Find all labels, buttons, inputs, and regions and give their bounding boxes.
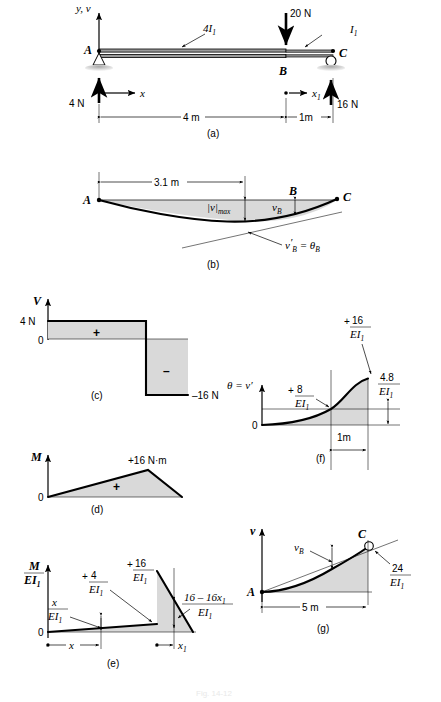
panel-f-peak-leader [362,344,371,374]
panel-e-right-den: EI1 [197,606,212,621]
panel-b-elastic-curve: 3.1 m A B C |v|max vB v′B = θB (b) [82,172,352,270]
panel-d-value-zero: 0 [38,492,44,503]
panel-e-axis-den: EI1 [23,573,40,589]
panel-b-label-b: B [288,184,297,198]
panel-e-dim-x-label2: x [68,639,74,651]
node-c-dot [331,49,335,53]
figure-caption: Fig. 14-12 [196,689,233,698]
panel-e-peak-left-sign: + [82,571,88,582]
panel-g-vb-label: vB [294,541,304,556]
panel-d-sign-positive: + [113,480,120,494]
panel-tag-a: (a) [207,128,219,139]
panel-f-dim-label: 1m [337,432,351,443]
panel-f-peak-num: 16 [352,315,364,326]
panel-c-value-zero: 0 [38,335,44,346]
beam-segment-bc-top [286,50,333,52]
panel-tag-c: (c) [91,390,103,401]
panel-f-mid-num: 8 [297,384,303,395]
panel-g-value-num: 24 [392,563,404,574]
panel-f-mid-label: + 8 EI1 [288,384,314,412]
panel-f-mid-sign: + [288,385,294,396]
panel-e-dot-b [155,643,158,646]
label-x1-axis: x1 [311,87,321,102]
panel-e-axis-label: M EI1 [23,559,44,589]
panel-f-right-den: EI1 [378,385,393,400]
panel-tag-f: (f) [316,453,325,464]
panel-e-peak-left-den: EI1 [88,583,103,598]
x1-origin-dot [284,91,288,95]
panel-f-peak-den: EI1 [349,328,364,343]
panel-b-dim-label: 3.1 m [154,177,179,188]
panel-d-value-peak: +16 N·m [128,455,167,466]
panel-b-node-a [97,198,101,202]
panel-g-node-c-roller [365,542,374,551]
panel-e-right-num: 16 – 16x1 [184,591,226,606]
panel-g-shaded-region [262,548,368,592]
panel-g-label-a: A [246,585,255,599]
label-x-axis: x [139,87,145,99]
panel-e-dot-origin [46,643,49,646]
panel-g-value-leader [375,551,390,564]
panel-g-axis-label: v [250,524,256,538]
panel-c-value-bottom: –16 N [192,390,219,401]
panel-f-shaded-region [262,379,368,425]
panel-b-node-c [335,197,339,201]
reaction-left-label: 4 N [69,98,85,109]
panel-e-peak-right-label: + 16 EI1 [127,558,154,586]
panel-c-sign-positive: + [93,326,100,340]
roller-support-circle [326,56,336,66]
beam-segment-bc-bottom [286,55,333,57]
panel-e-value-zero: 0 [38,627,44,638]
panel-e-peak-left-leader [110,590,152,622]
panel-b-label-a: A [82,193,91,207]
panel-d-axis-label: M [30,450,42,464]
panel-c-sign-negative: – [163,364,170,378]
leader-i1 [305,35,322,47]
panel-c-axis-label: V [33,294,42,308]
panel-e-peak-right-den: EI1 [132,571,147,586]
panel-g-label-c: C [358,527,367,541]
panel-e-peak-right-num: 16 [135,558,147,569]
panel-e-right-expr-label: 16 – 16x1 EI1 [182,591,233,621]
panel-tag-b: (b) [207,259,219,270]
panel-g-vb-leader [310,551,332,562]
panel-d-moment-diagram: M 0 +16 N·m + (d) [30,450,182,515]
applied-load-label: 20 N [290,8,311,19]
pin-support-ground [85,65,113,71]
panel-f-slope-diagram: θ = v′ 0 + 8 EI1 + 16 EI1 [227,315,400,470]
beam-segment-ab-bottom [99,55,286,58]
panel-f-mid-den: EI1 [294,397,309,412]
dim-label-4m: 4 m [183,112,200,123]
panel-e-peak-right-sign: + [127,559,133,570]
panel-a-axis-label: y, v [75,2,91,14]
panel-f-value-zero: 0 [252,420,258,431]
panel-e-slope-num: x [51,596,57,608]
panel-f-mid-leader [316,399,329,407]
panel-e-slope-expr-label: x EI1 [47,596,68,625]
label-point-a: A [83,43,92,57]
dim-label-1m: 1m [299,112,313,123]
panel-g-dim-label: 5 m [302,602,319,613]
panel-g-deflection-diagram: v A C vB 24 EI1 5 [246,524,411,634]
figure-root: y, v A B C 4I1 I1 20 N [0,0,441,702]
label-point-b: B [278,64,287,78]
panel-g-value-den: EI1 [389,576,404,591]
panel-e-dim-x1-label: x1 [177,639,187,654]
label-point-c: C [339,46,348,60]
panel-f-peak-label: + 16 EI1 [344,315,371,343]
panel-b-tangent-leader [248,232,282,245]
label-inertia-right: I1 [349,23,357,38]
panel-f-axis-label: θ = v′ [227,379,253,391]
panel-e-moment-over-ei: M EI1 0 + 16 EI1 + 4 [23,558,233,669]
panel-e-slope-den: EI1 [47,610,62,625]
beam-segment-ab-top [99,49,286,52]
panel-a-beam-loading: y, v A B C 4I1 I1 20 N [69,2,358,139]
roller-support-ground [317,65,345,71]
panel-e-peak-left-label: + 4 EI1 [82,570,108,598]
panel-c-value-top: 4 N [20,316,36,327]
reaction-right-label: 16 N [337,99,358,110]
panel-b-label-c: C [343,190,352,204]
panel-g-value-label: 24 EI1 [389,563,411,591]
panel-e-slope-leader [70,617,101,628]
panel-f-peak-sign: + [344,316,350,327]
